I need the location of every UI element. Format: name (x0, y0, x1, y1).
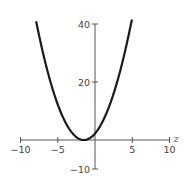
y-tick-label: 20 (78, 77, 90, 88)
x-tick-label: 5 (129, 144, 135, 155)
x-axis-label: z (173, 133, 180, 144)
y-tick-label: 40 (78, 19, 90, 30)
parabola-chart: −10−5510−102040z (0, 0, 187, 184)
x-tick-label: −10 (10, 144, 30, 155)
axes (21, 24, 170, 169)
x-tick-label: −5 (51, 144, 65, 155)
y-tick-label: −10 (70, 164, 90, 175)
x-tick-label: 10 (163, 144, 175, 155)
